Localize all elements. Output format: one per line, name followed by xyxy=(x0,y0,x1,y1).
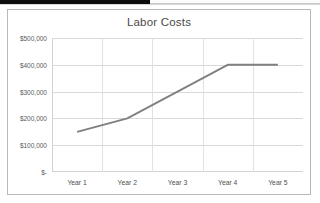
series-polyline xyxy=(77,65,278,132)
top-divider xyxy=(0,4,320,5)
plot-area: $500,000$400,000$300,000$200,000$100,000… xyxy=(52,38,303,172)
chart-title: Labor Costs xyxy=(8,16,310,28)
y-axis-tick-label: $400,000 xyxy=(20,61,47,68)
data-series-line xyxy=(52,38,303,172)
y-axis-tick-label: $500,000 xyxy=(20,35,47,42)
y-axis-tick-label: $100,000 xyxy=(20,142,47,149)
x-axis-tick-label: Year 5 xyxy=(268,179,287,186)
chart-container[interactable]: Labor Costs $500,000$400,000$300,000$200… xyxy=(7,9,311,195)
x-axis-tick-label: Year 4 xyxy=(218,179,237,186)
y-axis-tick-label: $- xyxy=(41,169,47,176)
y-axis-tick-label: $200,000 xyxy=(20,115,47,122)
x-axis-tick-label: Year 3 xyxy=(168,179,187,186)
x-axis-tick-label: Year 1 xyxy=(67,179,86,186)
x-axis-tick-label: Year 2 xyxy=(118,179,137,186)
y-axis-tick-label: $300,000 xyxy=(20,88,47,95)
